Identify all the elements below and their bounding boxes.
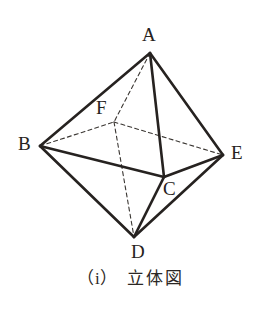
edge-B-D	[40, 146, 134, 237]
figure-caption: （i）立体図	[0, 268, 261, 290]
vertex-label-F: F	[96, 98, 107, 117]
vertex-label-D: D	[131, 242, 145, 261]
edge-A-B	[40, 53, 150, 146]
caption-index: （i）	[77, 269, 117, 288]
edge-F-E	[114, 122, 223, 155]
vertex-label-E: E	[231, 143, 243, 162]
solid-figure-container: A B C D E F （i）立体図	[0, 0, 261, 313]
caption-text: 立体図	[127, 269, 184, 288]
edge-D-E	[134, 155, 223, 237]
edge-A-F	[114, 53, 150, 122]
vertex-label-C: C	[163, 179, 176, 198]
vertex-label-B: B	[18, 134, 31, 153]
hidden-edges-group	[40, 53, 223, 237]
edge-C-D	[134, 177, 164, 237]
edge-B-C	[40, 146, 164, 177]
visible-edges-group	[40, 53, 223, 237]
edge-C-E	[164, 155, 223, 177]
octahedron-drawing	[0, 0, 261, 313]
vertex-label-A: A	[142, 25, 156, 44]
edge-B-F	[40, 122, 114, 146]
